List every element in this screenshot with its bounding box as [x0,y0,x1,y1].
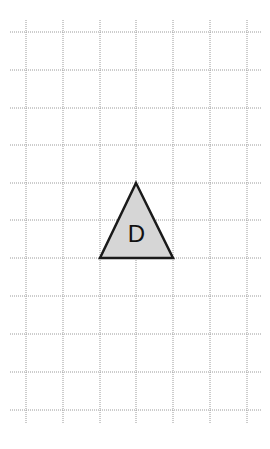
shape-label: D [128,220,145,247]
grid-diagram: D [0,0,270,449]
